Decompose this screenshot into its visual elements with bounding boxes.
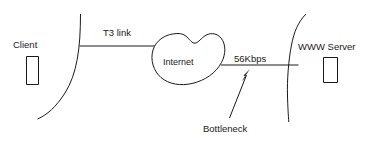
client-device-box — [27, 57, 39, 85]
server-label: WWW Server — [298, 41, 356, 52]
server-network-boundary-curve — [287, 14, 306, 122]
client-label: Client — [13, 39, 38, 50]
client-network-boundary-curve — [38, 14, 81, 119]
server-device-box — [324, 58, 338, 83]
bottleneck-arrow-shaft — [230, 75, 247, 118]
t3-link-label: T3 link — [103, 27, 131, 38]
network-diagram: Client T3 link Internet 56Kbps WWW Serve… — [0, 0, 377, 141]
bottleneck-link-label: 56Kbps — [234, 53, 266, 64]
internet-label: Internet — [163, 57, 194, 67]
diagram-canvas: Client T3 link Internet 56Kbps WWW Serve… — [0, 0, 377, 141]
bottleneck-arrow-head — [242, 69, 251, 82]
bottleneck-annotation-label: Bottleneck — [203, 123, 248, 134]
